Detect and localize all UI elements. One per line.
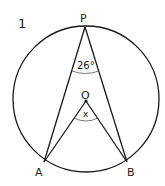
radius-oa bbox=[44, 101, 86, 162]
label-a: A bbox=[35, 166, 43, 179]
circle-theorem-diagram: 1 P O A B 26° x bbox=[0, 0, 165, 186]
chord-pb bbox=[85, 27, 127, 162]
chord-pa bbox=[44, 27, 85, 162]
question-number: 1 bbox=[18, 16, 26, 31]
label-p: P bbox=[80, 12, 87, 25]
angle-arc-p bbox=[72, 71, 99, 74]
label-b: B bbox=[127, 166, 135, 179]
label-o: O bbox=[81, 89, 90, 102]
angle-label-p: 26° bbox=[77, 60, 95, 71]
angle-label-o: x bbox=[83, 109, 89, 119]
radius-ob bbox=[86, 101, 127, 162]
